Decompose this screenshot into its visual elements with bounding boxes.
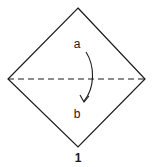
fold-arrow-icon (84, 52, 93, 101)
square-paper (8, 8, 145, 147)
label-b: b (74, 107, 81, 121)
label-a: a (74, 37, 81, 51)
origami-diagram: a b 1 (0, 0, 157, 167)
step-number: 1 (75, 151, 82, 165)
